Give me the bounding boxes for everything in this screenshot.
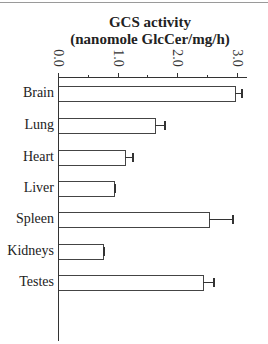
minor-tick: [88, 75, 89, 77]
category-label: Lung: [0, 117, 54, 133]
category-label: Kidneys: [0, 243, 54, 259]
bar-brain: [59, 86, 236, 102]
error-bar-cap: [232, 215, 234, 224]
error-bar-cap: [132, 153, 134, 162]
error-bar-cap: [164, 121, 166, 130]
major-tick: [118, 73, 119, 77]
bar-testes: [59, 275, 204, 291]
category-label: Heart: [0, 149, 54, 165]
x-tick-label: 1.0: [110, 43, 126, 73]
category-label: Brain: [0, 85, 54, 101]
minor-tick: [207, 75, 208, 77]
minor-tick: [147, 75, 148, 77]
x-tick-label: 0.0: [50, 43, 66, 73]
bar-spleen: [59, 212, 210, 228]
top-border-line: [0, 2, 268, 3]
major-tick: [237, 73, 238, 77]
category-label: Testes: [0, 274, 54, 290]
y-axis: [58, 77, 59, 341]
category-label: Spleen: [0, 211, 54, 227]
error-bar-cap: [241, 89, 243, 98]
bar-lung: [59, 118, 156, 134]
x-axis: [58, 77, 247, 78]
error-bar-cap: [213, 278, 215, 287]
chart-subtitle-units: (nanomole GlcCer/mg/h): [40, 31, 260, 47]
bar-liver: [59, 181, 115, 197]
bar-heart: [59, 150, 126, 166]
error-bar: [203, 282, 213, 283]
category-label: Liver: [0, 180, 54, 196]
major-tick: [58, 73, 59, 77]
error-bar: [209, 219, 233, 220]
x-tick-label: 3.0: [229, 43, 245, 73]
error-bar-cap: [114, 184, 116, 193]
chart-title: GCS activity: [40, 14, 260, 30]
x-tick-label: 2.0: [169, 43, 185, 73]
major-tick: [177, 73, 178, 77]
bar-kidneys: [59, 244, 104, 260]
error-bar-cap: [103, 247, 105, 256]
